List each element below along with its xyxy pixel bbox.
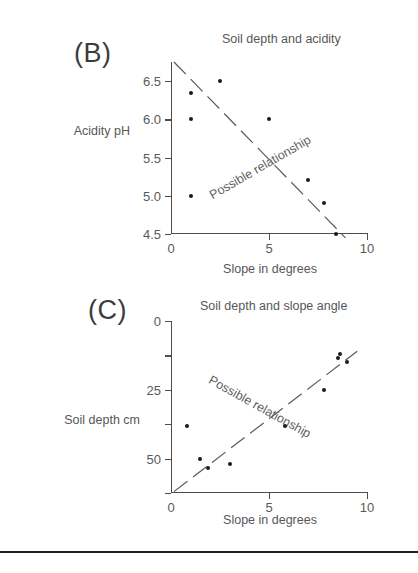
panel-c: (C) Soil depth and slope angle Soil dept… [0, 285, 418, 535]
data-point [185, 424, 189, 428]
y-axis-tick-label: 0 [154, 314, 161, 329]
x-axis-tick-label: 10 [360, 500, 374, 515]
y-axis-tick [165, 493, 171, 494]
y-axis-tick [165, 81, 171, 82]
y-axis-tick [165, 321, 171, 322]
panel-c-y-axis-label: Soil depth cm [10, 413, 140, 427]
panel-b-y-axis-label: Acidity pH [10, 124, 130, 138]
data-point [198, 457, 202, 461]
x-axis-tick [269, 234, 270, 240]
y-axis-tick-label: 25 [147, 382, 161, 397]
panel-b-title: Soil depth and acidity [222, 32, 341, 46]
data-point [334, 232, 338, 236]
panel-c-letter: (C) [88, 295, 127, 326]
panel-b-letter: (B) [74, 38, 112, 69]
y-axis-tick [165, 390, 171, 391]
y-axis-tick-label: 4.5 [143, 227, 161, 242]
data-point [228, 462, 232, 466]
x-axis-tick [269, 493, 270, 499]
y-axis-tick-label: 5.0 [143, 188, 161, 203]
x-axis-tick-label: 10 [360, 241, 374, 256]
data-point [322, 201, 326, 205]
x-axis-tick-label: 5 [265, 500, 272, 515]
y-axis-tick [165, 119, 171, 120]
panel-b-trendline [171, 62, 367, 234]
data-point [345, 360, 349, 364]
data-point [206, 466, 210, 470]
panel-c-title: Soil depth and slope angle [200, 299, 347, 313]
data-point [283, 424, 287, 428]
y-axis-tick [165, 234, 171, 235]
figure-container: (B) Soil depth and acidity Acidity pH Sl… [0, 0, 418, 573]
y-axis-tick-label: 6.0 [143, 112, 161, 127]
panel-b-x-axis-label: Slope in degrees [170, 262, 370, 276]
y-axis-tick [165, 459, 171, 460]
figure-bottom-rule [0, 551, 418, 553]
x-axis-tick-label: 5 [265, 241, 272, 256]
data-point [218, 79, 222, 83]
y-axis-tick-label: 50 [147, 451, 161, 466]
x-axis-tick [367, 492, 368, 499]
y-axis-tick-label: 5.5 [143, 150, 161, 165]
data-point [189, 91, 193, 95]
data-point [267, 117, 271, 121]
data-point [338, 352, 342, 356]
data-point [336, 356, 340, 360]
y-axis-tick [165, 158, 171, 159]
panel-c-x-axis-label: Slope in degrees [170, 513, 370, 527]
y-axis-tick [165, 196, 171, 197]
data-point [189, 194, 193, 198]
panel-b: (B) Soil depth and acidity Acidity pH Sl… [0, 0, 418, 285]
y-axis-tick [165, 355, 171, 356]
data-point [322, 388, 326, 392]
panel-c-plot-area: Possible relationship 025500510 [171, 321, 367, 493]
x-axis-tick-label: 0 [167, 241, 174, 256]
panel-b-plot-area: Possible relationship 4.55.05.56.06.5051… [171, 62, 367, 234]
data-point [189, 117, 193, 121]
y-axis-tick-label: 6.5 [143, 74, 161, 89]
y-axis-tick [165, 424, 171, 425]
x-axis-tick [367, 233, 368, 240]
x-axis-tick-label: 0 [167, 500, 174, 515]
data-point [306, 178, 310, 182]
